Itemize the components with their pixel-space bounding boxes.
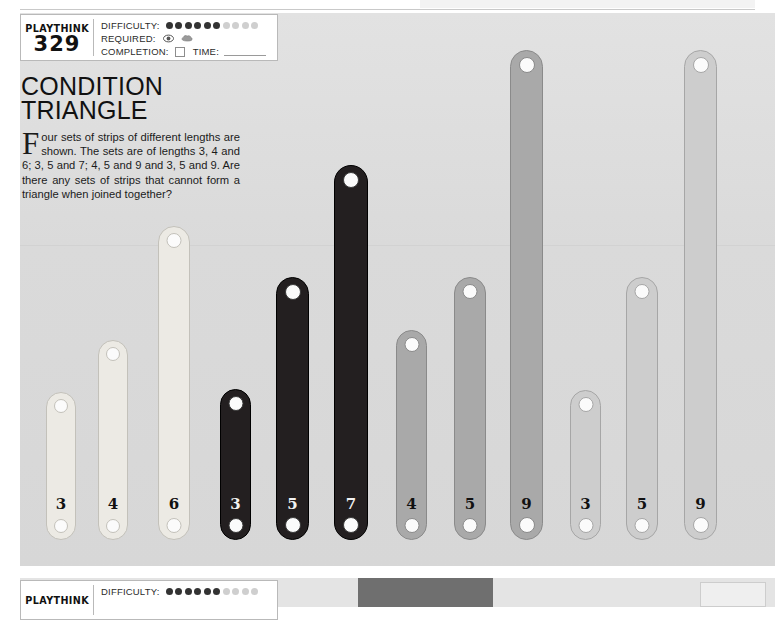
difficulty-dot [166,22,173,29]
difficulty-dot [232,22,239,29]
strip-hole [519,57,535,73]
strip-hole [463,518,478,533]
difficulty-dot [242,588,249,595]
strip-9[interactable]: 9 [684,50,717,540]
strip-hole [404,337,419,352]
strip-length-label: 4 [108,495,118,513]
strip-hole [54,519,68,533]
playthink-meta-box: PLAYTHINK 329 DIFFICULTY: REQUIRED: [20,14,278,61]
strip-hole [635,518,650,533]
difficulty-dot [251,22,258,29]
difficulty-dot [213,22,220,29]
strip-length-label: 5 [287,495,297,513]
strip-5[interactable]: 5 [276,277,309,540]
strip-length-label: 9 [695,495,705,513]
strip-hole [285,517,301,533]
difficulty-dot [242,22,249,29]
strip-hole [343,517,359,533]
next-playthink-badge: PLAYTHINK [21,581,93,619]
strip-hole [693,57,709,73]
strip-3[interactable]: 3 [46,392,76,540]
difficulty-rating [166,22,259,29]
next-difficulty-rating [166,588,259,595]
strip-hole [404,518,419,533]
strip-hole [635,284,650,299]
puzzle-description: Four sets of strips of different lengths… [22,130,240,201]
strip-length-label: 4 [406,495,416,513]
time-label: TIME: [193,46,219,57]
strip-hole [463,284,478,299]
eye-icon [163,34,174,43]
required-label: REQUIRED: [101,33,156,44]
difficulty-dot [185,588,192,595]
next-brand-label: PLAYTHINK [25,595,89,606]
strip-length-label: 5 [637,495,647,513]
next-panel-side-box [700,582,766,607]
completion-label: COMPLETION: [101,46,169,57]
previous-panel-remnant [420,0,755,8]
strip-hole [106,519,120,533]
next-panel-thumbnail [358,578,493,607]
strip-5[interactable]: 5 [626,277,658,540]
strip-hole [343,172,359,188]
strip-6[interactable]: 6 [158,226,190,540]
strip-5[interactable]: 5 [454,277,486,540]
brand-label: PLAYTHINK [25,23,89,34]
next-playthink-meta-box: PLAYTHINK DIFFICULTY: [20,580,278,620]
difficulty-dot [204,588,211,595]
strip-4[interactable]: 4 [396,330,427,540]
strip-hole [167,233,182,248]
strip-hole [106,347,120,361]
required-row: REQUIRED: [101,32,277,45]
strip-hole [228,518,243,533]
strip-hole [578,518,593,533]
description-text: our sets of strips of different lengths … [22,131,240,200]
difficulty-dot [204,22,211,29]
difficulty-dot [194,22,201,29]
strip-hole [578,397,593,412]
strip-length-label: 7 [346,495,356,513]
completion-row: COMPLETION: TIME: [101,45,277,58]
strip-hole [167,518,182,533]
difficulty-dot [175,22,182,29]
difficulty-dot [232,588,239,595]
time-write-line[interactable] [224,47,266,56]
title-line-2: TRIANGLE [21,96,148,124]
playthink-badge: PLAYTHINK 329 [21,15,93,60]
next-meta-fields: DIFFICULTY: [94,581,277,619]
strip-3[interactable]: 3 [570,390,601,540]
difficulty-row: DIFFICULTY: [101,19,277,32]
next-difficulty-label: DIFFICULTY: [101,586,160,597]
meta-fields: DIFFICULTY: REQUIRED: COMP [94,15,277,60]
difficulty-dot [166,588,173,595]
difficulty-dot [194,588,201,595]
strip-4[interactable]: 4 [98,340,128,540]
strip-hole [54,399,68,413]
difficulty-label: DIFFICULTY: [101,20,160,31]
puzzle-number: 329 [34,35,81,54]
next-difficulty-row: DIFFICULTY: [101,585,277,598]
strip-length-label: 5 [465,495,475,513]
strip-9[interactable]: 9 [510,50,543,540]
strip-length-label: 3 [580,495,590,513]
difficulty-dot [223,22,230,29]
strip-hole [285,284,301,300]
difficulty-dot [213,588,220,595]
brain-icon [181,34,194,43]
strip-length-label: 9 [521,495,531,513]
strip-hole [228,396,243,411]
difficulty-dot [251,588,258,595]
strip-3[interactable]: 3 [220,389,251,540]
strip-hole [519,517,535,533]
difficulty-dot [175,588,182,595]
completion-checkbox[interactable] [175,47,185,57]
strip-hole [693,517,709,533]
page-top-rule [20,9,755,10]
strip-length-label: 3 [230,495,240,513]
strip-length-label: 3 [56,495,66,513]
strip-7[interactable]: 7 [334,165,368,540]
difficulty-dot [185,22,192,29]
page-title: CONDITION TRIANGLE [21,74,321,122]
panel-seam [20,245,775,246]
